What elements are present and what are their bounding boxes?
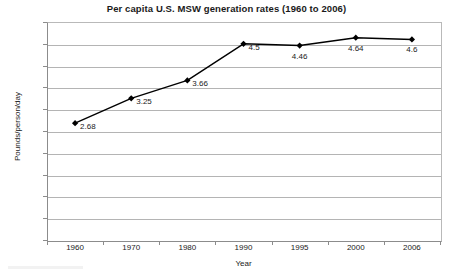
- data-point-label: 4.64: [336, 44, 376, 53]
- data-point-label: 4.6: [392, 45, 432, 54]
- chart-container: Per capita U.S. MSW generation rates (19…: [0, 0, 453, 275]
- data-point-marker: [353, 35, 359, 41]
- x-tick-label: 1960: [47, 243, 103, 252]
- data-point-marker: [72, 120, 78, 126]
- data-point-label: 3.66: [192, 79, 208, 88]
- x-tick-label: 1980: [159, 243, 215, 252]
- x-tick-label: 2000: [328, 243, 384, 252]
- x-tick-mark: [47, 241, 48, 245]
- data-point-label: 3.25: [136, 97, 152, 106]
- data-point-marker: [128, 95, 134, 101]
- data-point-marker: [297, 42, 303, 48]
- x-tick-mark: [159, 241, 160, 245]
- data-point-label: 4.5: [249, 43, 260, 52]
- x-tick-label: 1990: [215, 243, 271, 252]
- page-artifact: [8, 266, 83, 269]
- x-tick-label: 2006: [384, 243, 440, 252]
- x-tick-mark: [272, 241, 273, 245]
- x-tick-mark: [384, 241, 385, 245]
- data-series: [47, 22, 440, 240]
- data-point-label: 4.46: [280, 52, 320, 61]
- x-tick-mark: [328, 241, 329, 245]
- data-point-label: 2.68: [80, 122, 96, 131]
- x-tick-mark: [440, 241, 441, 245]
- x-tick-mark: [103, 241, 104, 245]
- y-axis-title: Pounds/person/day: [13, 67, 22, 187]
- chart-title: Per capita U.S. MSW generation rates (19…: [0, 3, 453, 14]
- x-tick-mark: [215, 241, 216, 245]
- x-tick-label: 1970: [103, 243, 159, 252]
- x-tick-label: 1995: [272, 243, 328, 252]
- data-point-marker: [409, 36, 415, 42]
- x-axis-title: Year: [47, 259, 440, 268]
